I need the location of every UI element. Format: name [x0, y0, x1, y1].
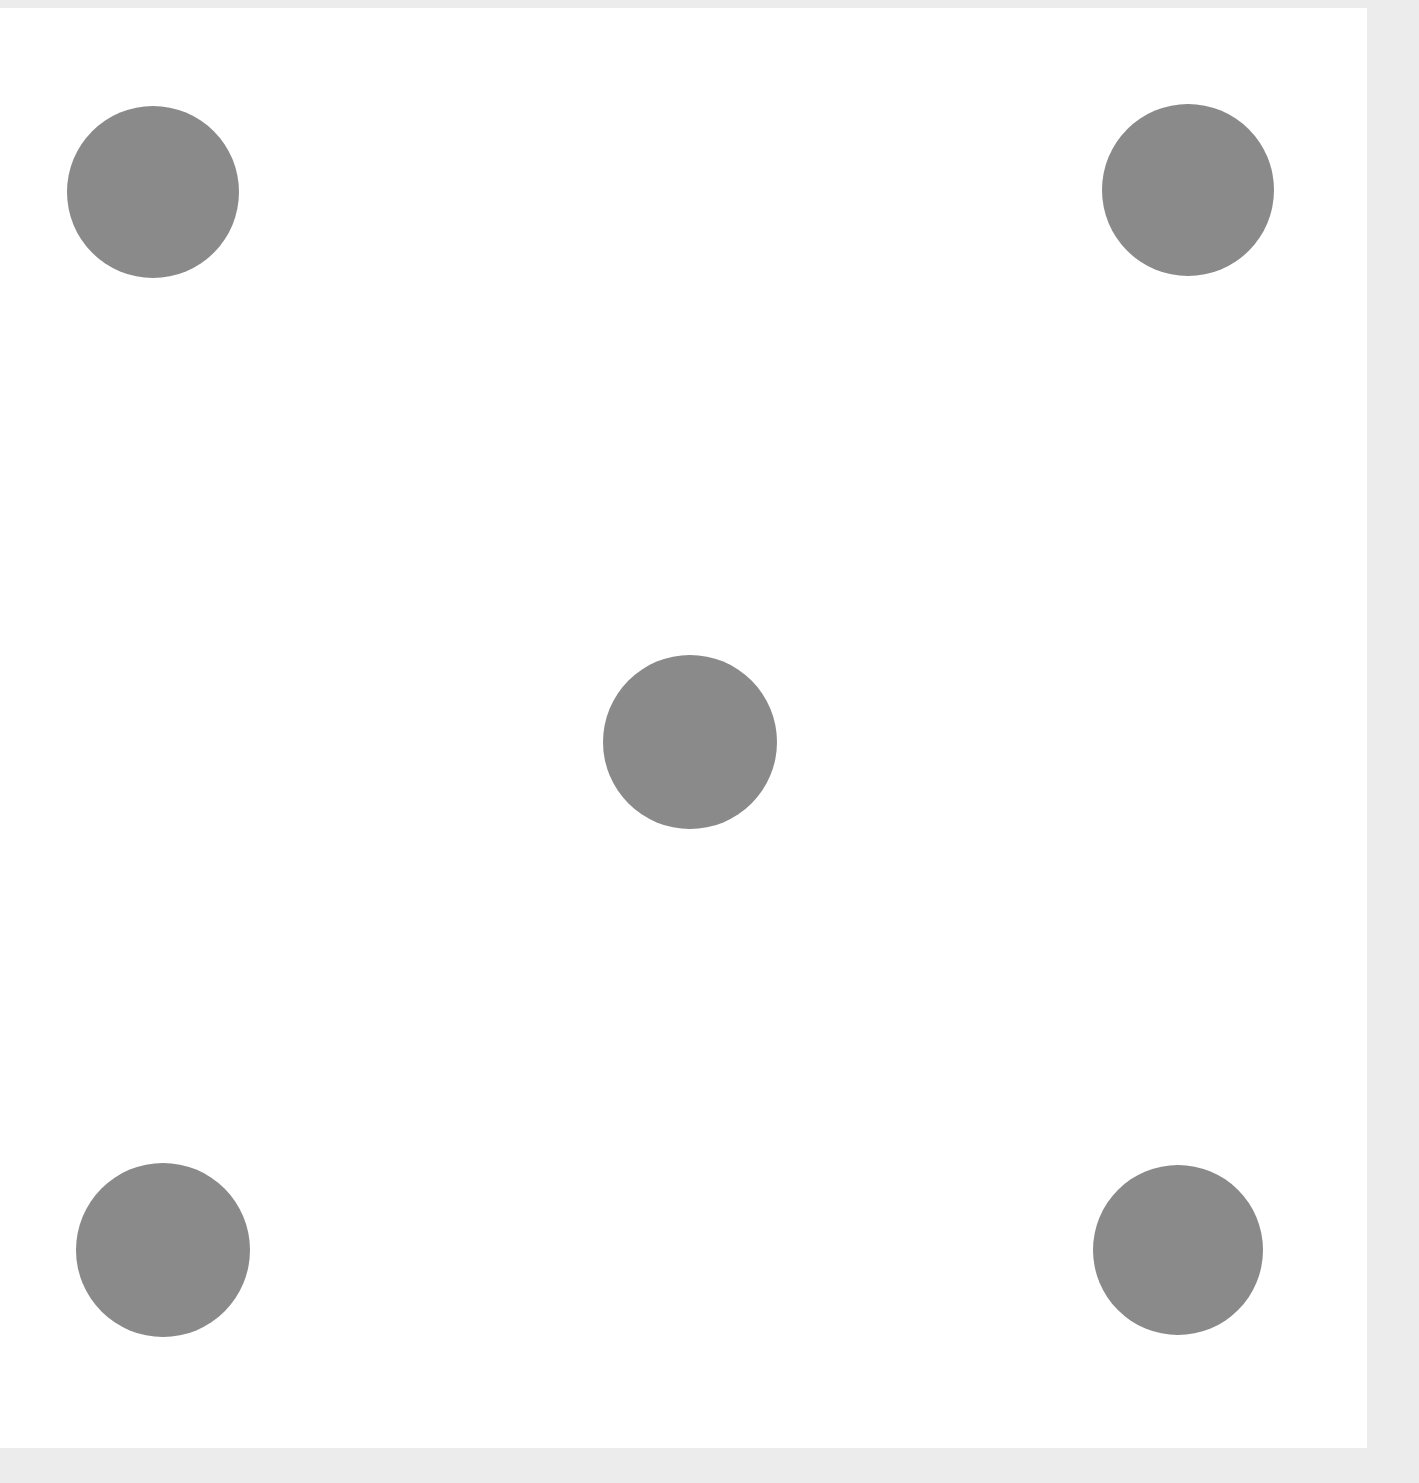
dice-face [0, 8, 1367, 1448]
pip-center-icon [603, 655, 777, 829]
pip-bottom-right-icon [1093, 1165, 1263, 1335]
pip-bottom-left-icon [76, 1163, 250, 1337]
pip-top-left-icon [67, 106, 239, 278]
pip-top-right-icon [1102, 104, 1274, 276]
